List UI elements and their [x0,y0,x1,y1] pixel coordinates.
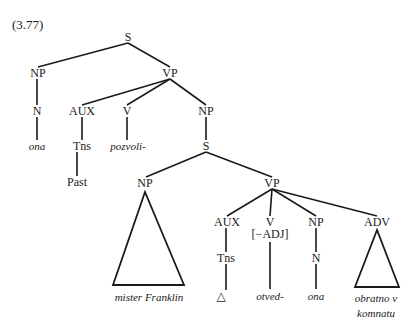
tree-node-np2: NP [198,105,213,117]
tree-node-delta: △ [216,290,225,302]
tree-node-vp1: VP [162,67,177,79]
tree-node-np1: NP [30,67,45,79]
tree-node-v1: V [123,105,132,117]
tree-node-komnatu: komnatu [357,308,395,319]
tree-node-tns1: Tns [73,140,91,152]
tree-edge [227,189,272,216]
tree-edge [38,43,128,67]
tree-edge [128,43,170,67]
adv-obratno-triangle [355,230,399,287]
tree-node-ona1: ona [29,141,46,152]
tree-edge [170,79,206,105]
tree-edge [146,152,206,177]
tree-node-aux1: AUX [69,105,95,117]
tree-edge [206,152,272,177]
syntax-tree-lines [0,0,412,325]
tree-node-np3: NP [137,177,152,189]
tree-edge [272,189,316,216]
tree-node-tns2: Tns [217,252,235,264]
tree-node-ona2: ona [308,291,325,302]
tree-edge [272,189,377,216]
tree-node-adv: ADV [364,216,390,228]
tree-node-misterfranklin: mister Franklin [115,292,184,303]
tree-node-pozvoli: pozvoli- [110,141,145,152]
tree-node-n2: N [312,252,321,264]
tree-node-obratno: obratno v [355,293,397,304]
tree-node-s2: S [203,140,210,152]
tree-node-aux2: AUX [214,216,240,228]
tree-edge [270,189,272,216]
tree-node-v2feat: [−ADJ] [252,228,289,240]
tree-edge [82,79,170,105]
tree-node-n1: N [33,105,42,117]
np-mister-franklin-triangle [113,192,184,285]
tree-node-vp2: VP [264,177,279,189]
tree-node-np4: NP [308,216,323,228]
tree-node-past: Past [67,176,87,188]
tree-edge [127,79,170,105]
tree-node-s: S [125,31,132,43]
tree-node-otved: otved- [256,291,283,302]
